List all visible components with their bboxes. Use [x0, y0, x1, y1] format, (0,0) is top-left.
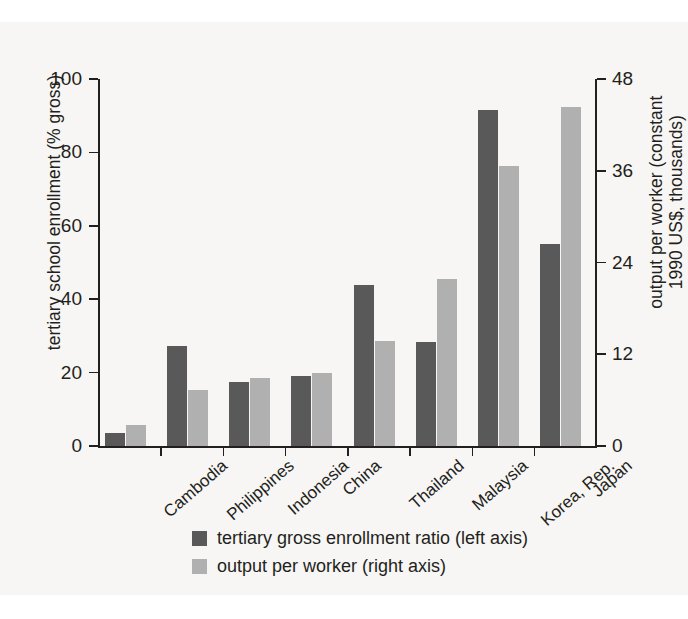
left-tick-label: 100: [42, 69, 82, 88]
category-label-philippines: Philippines: [224, 456, 299, 525]
right-tick-label: 0: [612, 436, 652, 455]
left-tick-label: 40: [42, 289, 82, 308]
right-axis-title-line-1: output per worker (constant: [646, 96, 666, 309]
bar-enrollment-korea-rep: [478, 110, 498, 446]
bar-output-malaysia: [437, 279, 457, 446]
right-tick-label: 12: [612, 344, 652, 363]
category-separator-tick: [534, 447, 536, 456]
right-tick-label: 48: [612, 69, 652, 88]
right-tick-mark: [597, 170, 606, 172]
left-tick-mark: [89, 372, 98, 374]
legend-swatch-icon: [192, 531, 207, 546]
legend-label: output per worker (right axis): [217, 556, 446, 577]
bar-output-japan: [561, 107, 581, 446]
category-separator-tick: [409, 447, 411, 456]
left-tick-label: 20: [42, 363, 82, 382]
left-tick-mark: [89, 152, 98, 154]
left-tick-label: 0: [42, 436, 82, 455]
left-tick-mark: [89, 225, 98, 227]
bar-enrollment-cambodia: [105, 433, 125, 446]
left-tick-label: 80: [42, 142, 82, 161]
category-separator-tick: [472, 447, 474, 456]
bar-output-cambodia: [126, 425, 146, 446]
bar-enrollment-china: [291, 376, 311, 446]
bar-enrollment-philippines: [167, 346, 187, 446]
left-tick-mark: [89, 445, 98, 447]
bar-enrollment-malaysia: [416, 342, 436, 446]
bar-output-thailand: [375, 341, 395, 447]
left-tick-mark: [89, 78, 98, 80]
legend-item: output per worker (right axis): [192, 552, 528, 580]
left-tick-mark: [89, 298, 98, 300]
category-label-thailand: Thailand: [406, 456, 468, 514]
chart-legend: tertiary gross enrollment ratio (left ax…: [192, 524, 528, 580]
right-tick-label: 36: [612, 161, 652, 180]
plot-area: [98, 79, 596, 446]
category-label-cambodia: Cambodia: [160, 456, 232, 522]
left-tick-label: 60: [42, 216, 82, 235]
category-separator-tick: [285, 447, 287, 456]
bar-output-philippines: [188, 390, 208, 446]
bar-enrollment-thailand: [354, 285, 374, 446]
category-separator-tick: [223, 447, 225, 456]
category-label-malaysia: Malaysia: [469, 456, 533, 515]
legend-item: tertiary gross enrollment ratio (left ax…: [192, 524, 528, 552]
category-separator-tick: [347, 447, 349, 456]
bar-enrollment-japan: [540, 244, 560, 446]
right-axis-title-line-2: 1990 US$, thousands): [666, 22, 686, 382]
right-tick-label: 24: [612, 253, 652, 272]
bar-enrollment-indonesia: [229, 382, 249, 446]
bar-output-indonesia: [250, 378, 270, 446]
bar-output-china: [312, 373, 332, 446]
right-tick-mark: [597, 78, 606, 80]
figure-panel: tertiary school enrollment (% gross) out…: [0, 22, 688, 595]
right-tick-mark: [597, 445, 606, 447]
right-tick-mark: [597, 262, 606, 264]
legend-swatch-icon: [192, 559, 207, 574]
legend-label: tertiary gross enrollment ratio (left ax…: [217, 528, 528, 549]
category-separator-tick: [160, 447, 162, 456]
right-tick-mark: [597, 353, 606, 355]
bar-output-korea-rep: [499, 166, 519, 446]
